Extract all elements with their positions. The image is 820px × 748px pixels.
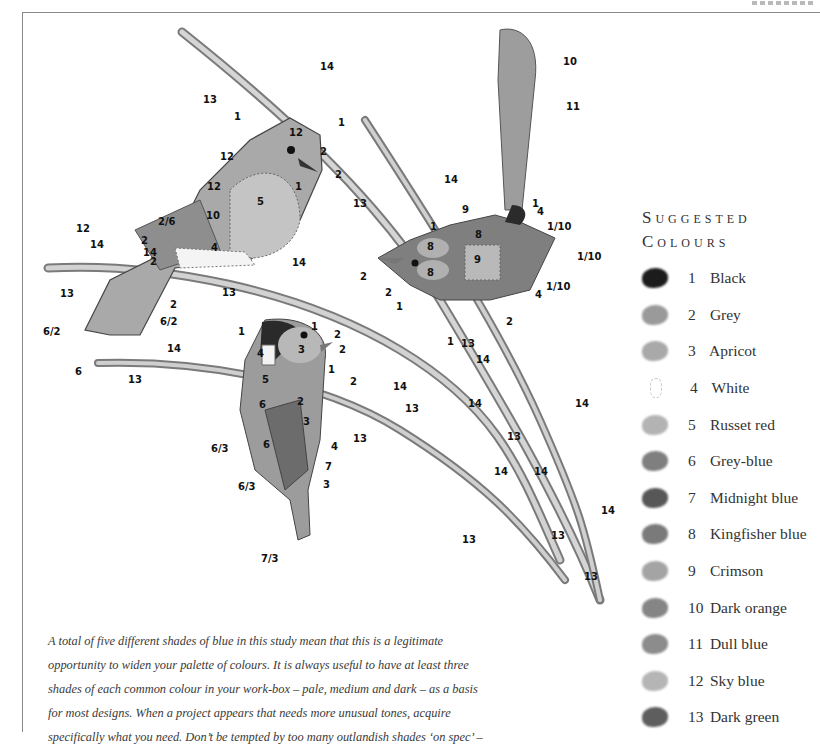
svg-text:14: 14 — [90, 239, 104, 250]
colour-label: 10 Dark orange — [688, 599, 787, 617]
svg-text:1: 1 — [234, 111, 241, 122]
svg-text:6/3: 6/3 — [238, 481, 256, 492]
legend-title-line2: Colours — [642, 230, 820, 254]
colour-number: 6 — [688, 452, 706, 470]
svg-text:14: 14 — [292, 257, 306, 268]
svg-text:4: 4 — [331, 441, 338, 452]
colour-list: 1 Black2 Grey3 Apricot4 White5 Russet re… — [640, 260, 820, 736]
svg-text:13: 13 — [507, 431, 521, 442]
colour-label: 13 Dark green — [688, 708, 779, 726]
colour-item: 1 Black — [640, 260, 820, 297]
svg-text:14: 14 — [601, 505, 615, 516]
colour-swatch-icon — [642, 561, 668, 581]
svg-text:13: 13 — [60, 288, 74, 299]
colour-name: Midnight blue — [710, 489, 798, 506]
svg-text:1/10: 1/10 — [547, 221, 572, 232]
svg-text:6: 6 — [75, 366, 82, 377]
colour-swatch-icon — [642, 671, 668, 691]
svg-text:13: 13 — [128, 374, 142, 385]
svg-text:6/2: 6/2 — [160, 316, 178, 327]
svg-text:1: 1 — [311, 321, 318, 332]
colour-name: Sky blue — [710, 672, 765, 689]
colour-label: 7 Midnight blue — [688, 489, 798, 507]
svg-text:9: 9 — [462, 204, 469, 215]
svg-text:7: 7 — [325, 461, 332, 472]
svg-text:2: 2 — [170, 299, 177, 310]
wren-bird — [378, 29, 555, 300]
colour-number: 1 — [688, 269, 706, 287]
svg-text:11: 11 — [566, 101, 580, 112]
svg-text:14: 14 — [534, 466, 548, 477]
svg-text:13: 13 — [405, 403, 419, 414]
svg-text:2: 2 — [506, 316, 513, 327]
colour-label: 5 Russet red — [688, 416, 775, 434]
colour-item: 11 Dull blue — [640, 626, 820, 663]
svg-text:5: 5 — [262, 374, 269, 385]
colour-name: Kingfisher blue — [710, 525, 807, 542]
svg-text:3: 3 — [303, 416, 310, 427]
svg-text:13: 13 — [462, 534, 476, 545]
svg-text:3: 3 — [323, 479, 330, 490]
colour-item: 9 Crimson — [640, 553, 820, 590]
colour-item: 13 Dark green — [640, 699, 820, 736]
svg-text:12: 12 — [220, 151, 234, 162]
svg-text:2: 2 — [360, 271, 367, 282]
svg-text:6/2: 6/2 — [43, 326, 61, 337]
colour-item: 2 Grey — [640, 297, 820, 334]
svg-text:13: 13 — [461, 338, 475, 349]
svg-text:1/10: 1/10 — [577, 251, 602, 262]
svg-text:2: 2 — [350, 376, 357, 387]
colour-swatch-icon — [642, 268, 668, 288]
svg-text:2: 2 — [335, 169, 342, 180]
svg-text:14: 14 — [468, 398, 482, 409]
colour-name: Dark orange — [710, 599, 787, 616]
suggested-colours-legend: Suggested Colours 1 Black2 Grey3 Apricot… — [640, 206, 820, 736]
svg-text:1: 1 — [238, 326, 245, 337]
colour-swatch-icon — [642, 415, 668, 435]
svg-text:7/3: 7/3 — [261, 553, 279, 564]
bird-illustration: 1413 1121 221 12125 102/64 121413 2214 2… — [23, 13, 633, 613]
svg-text:1: 1 — [396, 301, 403, 312]
colour-label: 12 Sky blue — [688, 672, 765, 690]
caption-line: shades of each common colour in your wor… — [48, 677, 638, 701]
colour-number: 7 — [688, 489, 706, 507]
colour-item: 3 Apricot — [640, 333, 820, 370]
svg-text:1/10: 1/10 — [546, 281, 571, 292]
svg-text:4: 4 — [537, 206, 544, 217]
svg-text:13: 13 — [222, 287, 236, 298]
svg-text:14: 14 — [167, 343, 181, 354]
svg-text:1: 1 — [447, 336, 454, 347]
svg-text:12: 12 — [207, 181, 221, 192]
svg-text:4: 4 — [535, 289, 542, 300]
svg-text:12: 12 — [289, 127, 303, 138]
colour-number: 10 — [688, 599, 706, 617]
svg-text:13: 13 — [353, 433, 367, 444]
colour-number: 8 — [688, 525, 706, 543]
svg-text:2: 2 — [385, 287, 392, 298]
svg-text:14: 14 — [476, 354, 490, 365]
colour-number: 5 — [688, 416, 706, 434]
colour-swatch-icon — [642, 451, 668, 471]
colour-label: 6 Grey-blue — [688, 452, 773, 470]
colour-label: 9 Crimson — [688, 562, 763, 580]
colour-item: 10 Dark orange — [640, 589, 820, 626]
svg-text:1: 1 — [295, 181, 302, 192]
colour-swatch-icon — [642, 634, 668, 654]
svg-text:6: 6 — [263, 439, 270, 450]
svg-text:6: 6 — [259, 399, 266, 410]
caption-line: opportunity to widen your palette of col… — [48, 653, 638, 677]
svg-text:8: 8 — [475, 229, 482, 240]
caption-line: A total of five different shades of blue… — [48, 629, 638, 653]
colour-name: Black — [710, 269, 746, 286]
svg-text:1: 1 — [430, 221, 437, 232]
colour-swatch-icon — [650, 378, 662, 398]
colour-number: 11 — [688, 635, 706, 653]
svg-text:10: 10 — [206, 210, 220, 221]
svg-text:13: 13 — [203, 94, 217, 105]
svg-text:2: 2 — [297, 396, 304, 407]
colour-item: 4 White — [640, 370, 820, 407]
svg-text:1: 1 — [338, 117, 345, 128]
colour-number: 2 — [688, 306, 706, 324]
svg-text:13: 13 — [551, 530, 565, 541]
svg-text:8: 8 — [427, 241, 434, 252]
